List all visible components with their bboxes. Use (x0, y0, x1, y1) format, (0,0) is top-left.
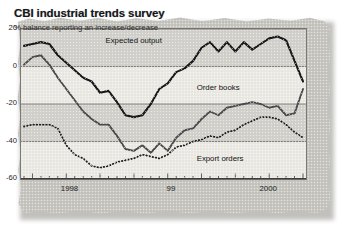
y-axis-tick-label: -40 (0, 136, 17, 145)
y-axis-tick-label: -60 (0, 173, 17, 182)
series-line (24, 117, 303, 168)
chart-canvas (21, 29, 306, 179)
series-label: Expected output (106, 36, 162, 45)
x-axis-tick-label: 99 (151, 184, 191, 193)
y-axis-tick-label: 20 (0, 23, 17, 32)
screenshot-root: CBI industrial trends survey % balance r… (0, 0, 346, 233)
chart-title: CBI industrial trends survey (14, 7, 165, 19)
y-axis-tick-label: -20 (0, 98, 17, 107)
series-label: Export orders (197, 154, 244, 163)
y-axis-tick-label: 0 (0, 61, 17, 70)
x-axis-tick-label: 2000 (248, 184, 288, 193)
chart-subtitle: % balance reporting an increase/decrease (14, 23, 165, 32)
chart-header: CBI industrial trends survey % balance r… (14, 7, 165, 32)
x-axis-tick-label: 1998 (50, 184, 90, 193)
plot-area (20, 28, 307, 180)
series-label: Order books (197, 83, 240, 92)
